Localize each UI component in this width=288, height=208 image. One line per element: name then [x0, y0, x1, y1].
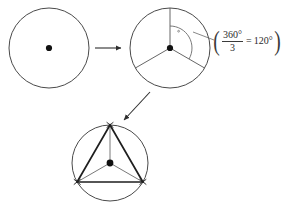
- center-point-step3: [107, 160, 114, 167]
- step-2-circle-with-radii: [130, 8, 214, 88]
- step-1-plain-circle: [9, 8, 89, 88]
- arrow-step2-to-step3: [124, 92, 150, 120]
- radius-lower-left: [135, 48, 170, 68]
- center-point-step1: [46, 45, 52, 51]
- step-3-inscribed-triangle: [72, 122, 148, 201]
- radius-lower-right: [170, 48, 205, 68]
- equals-sign: =: [246, 35, 252, 47]
- fraction-denominator: 3: [229, 42, 236, 53]
- angle-arc-tick: [178, 30, 180, 32]
- angle-fraction: 360° 3: [222, 30, 243, 53]
- angle-leader-line: [193, 32, 214, 40]
- center-point-step2: [167, 45, 173, 51]
- close-paren: ): [274, 28, 280, 55]
- open-paren: (: [213, 28, 219, 55]
- fraction-numerator: 360°: [222, 30, 243, 41]
- central-angle-formula: ( 360° 3 = 120° ): [212, 24, 288, 58]
- angle-result: 120°: [254, 35, 273, 47]
- arrow-line-diagonal: [124, 92, 150, 120]
